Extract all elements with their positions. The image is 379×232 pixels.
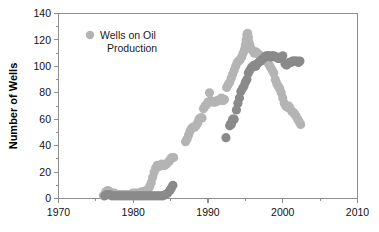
data-point [220,95,229,104]
chart-legend: Wells on Oil Production [86,29,158,54]
legend-marker-icon [86,31,94,39]
data-point [169,153,178,162]
y-tick-label: 40 [39,139,51,151]
data-point [168,181,177,190]
x-tick-label: 1990 [196,206,220,218]
chart-figure: 02040608010012014019701980199020002010Nu… [0,0,379,232]
y-tick-label: 20 [39,166,51,178]
x-tick-label: 2000 [271,206,295,218]
y-tick-label: 80 [39,86,51,98]
data-point [296,120,305,129]
x-tick-label: 2010 [346,206,370,218]
x-tick-label: 1970 [47,206,71,218]
scatter-plot: 02040608010012014019701980199020002010Nu… [0,0,379,232]
y-tick-label: 60 [39,113,51,125]
y-tick-label: 0 [45,192,51,204]
y-tick-label: 120 [33,34,51,46]
data-point [278,51,287,60]
y-tick-label: 100 [33,60,51,72]
data-points-group [99,29,306,201]
y-axis-title: Number of Wells [7,63,19,150]
data-point [205,88,214,97]
legend-label-line1: Wells on Oil [100,29,156,41]
axes-group: 02040608010012014019701980199020002010Nu… [7,7,369,217]
data-point [197,113,206,122]
data-point [221,133,230,142]
data-point [295,56,304,65]
y-tick-label: 140 [33,7,51,19]
x-tick-label: 1980 [122,206,146,218]
data-point [230,115,239,124]
legend-label-line2: Production [107,42,157,54]
